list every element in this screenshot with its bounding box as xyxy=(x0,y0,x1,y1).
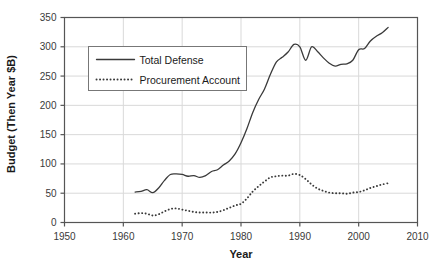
y-tick-label: 150 xyxy=(40,129,57,140)
defense-budget-line-chart: Budget (Then Year $B) 050100150200250300… xyxy=(0,0,445,271)
y-tick-label: 250 xyxy=(40,71,57,82)
x-tick-group: 1950196019701980199020002010 xyxy=(53,223,429,242)
y-tick-label: 350 xyxy=(40,12,57,23)
data-line-procurement-account xyxy=(135,174,388,216)
y-tick-label: 200 xyxy=(40,100,57,111)
x-tick-label: 1980 xyxy=(230,231,253,242)
y-tick-group: 050100150200250300350 xyxy=(40,12,65,228)
y-tick-label: 300 xyxy=(40,41,57,52)
y-tick-label: 100 xyxy=(40,158,57,169)
x-tick-label: 1960 xyxy=(112,231,135,242)
x-tick-label: 1970 xyxy=(171,231,194,242)
y-tick-label: 0 xyxy=(51,217,57,228)
x-axis-title: Year xyxy=(64,248,418,260)
y-tick-label: 50 xyxy=(45,188,57,199)
legend-label: Total Defense xyxy=(140,54,204,66)
x-tick-label: 2010 xyxy=(406,231,429,242)
chart-legend: Total DefenseProcurement Account xyxy=(89,47,247,91)
plot-canvas: 050100150200250300350 195019601970198019… xyxy=(0,0,445,271)
x-tick-label: 1990 xyxy=(289,231,312,242)
x-tick-label: 2000 xyxy=(348,231,371,242)
x-tick-label: 1950 xyxy=(53,231,76,242)
legend-label: Procurement Account xyxy=(140,74,240,86)
